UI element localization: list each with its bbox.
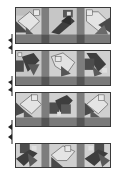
strip-1-art <box>16 8 110 43</box>
strip-4-art <box>16 144 110 167</box>
quilt-strip-2 <box>15 50 111 86</box>
strip-2-art <box>16 51 110 85</box>
strip-3-art <box>16 93 110 126</box>
join-arrow-icon <box>8 120 14 144</box>
quilt-strip-3 <box>15 92 111 127</box>
quilt-strip-4 <box>15 143 111 168</box>
join-arrow-icon <box>8 76 14 96</box>
join-arrow-icon <box>8 34 14 54</box>
quilt-strip-1 <box>15 7 111 44</box>
